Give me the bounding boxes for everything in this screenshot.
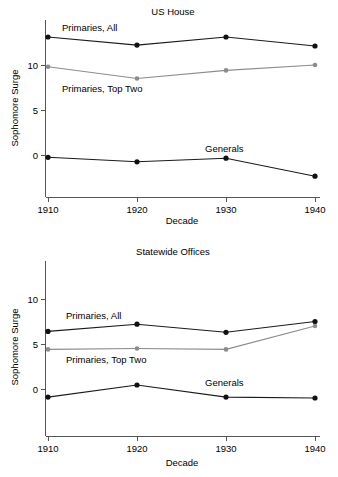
data-point [45, 34, 50, 39]
panel-title-statewide-offices: Statewide Offices [136, 246, 210, 257]
series-primaries-all-bottom [45, 319, 317, 335]
series-label-generals-top: Generals [205, 143, 244, 154]
series-generals-bottom [45, 382, 317, 400]
data-point [312, 395, 317, 400]
data-point [223, 156, 228, 161]
data-point [224, 347, 229, 352]
chart-panel-us-house: US House 0 5 10 1910 1920 1930 1940 Deca… [0, 0, 338, 240]
x-tick-label-1940-bottom: 1940 [304, 443, 325, 454]
series-primaries-top-two-top [46, 63, 318, 81]
data-point [312, 319, 317, 324]
data-point [46, 347, 51, 352]
series-generals-top [45, 155, 317, 179]
data-point [313, 324, 318, 329]
series-primaries-all-top [45, 34, 317, 48]
data-point [223, 330, 228, 335]
data-point [45, 329, 50, 334]
y-tick-label-0-bottom: 0 [33, 384, 38, 395]
us-house-plot: US House 0 5 10 1910 1920 1930 1940 Deca… [0, 0, 338, 240]
panel-title-us-house: US House [151, 6, 194, 17]
series-label-primaries-all-bottom: Primaries, All [66, 310, 121, 321]
y-axis-title-bottom: Sophomore Surge [9, 308, 20, 385]
data-point [312, 174, 317, 179]
series-label-primaries-all-top: Primaries, All [62, 22, 117, 33]
data-point [312, 43, 317, 48]
data-point [134, 322, 139, 327]
x-tick-label-1920-top: 1920 [126, 204, 147, 215]
data-point [223, 34, 228, 39]
data-point [134, 159, 139, 164]
x-tick-label-1930-bottom: 1930 [215, 443, 236, 454]
series-label-generals-bottom: Generals [205, 377, 244, 388]
y-tick-label-5-bottom: 5 [33, 339, 38, 350]
y-axis-title-top: Sophomore Surge [9, 69, 20, 146]
x-tick-label-1910-bottom: 1910 [37, 443, 58, 454]
x-axis-title-top: Decade [166, 215, 199, 226]
data-point [45, 155, 50, 160]
statewide-offices-plot: Statewide Offices 0 5 10 1910 1920 1930 … [0, 240, 338, 477]
series-label-primaries-top-two-top: Primaries, Top Two [62, 83, 142, 94]
x-tick-label-1910-top: 1910 [37, 204, 58, 215]
y-tick-label-10-bottom: 10 [27, 294, 38, 305]
figure-sophomore-surge: US House 0 5 10 1910 1920 1930 1940 Deca… [0, 0, 338, 477]
data-point [46, 65, 51, 70]
x-tick-label-1920-bottom: 1920 [126, 443, 147, 454]
chart-panel-statewide-offices: Statewide Offices 0 5 10 1910 1920 1930 … [0, 240, 338, 477]
data-point [313, 63, 318, 68]
data-point [45, 395, 50, 400]
x-tick-label-1940-top: 1940 [304, 204, 325, 215]
data-point [134, 43, 139, 48]
y-tick-label-5-top: 5 [33, 105, 38, 116]
x-tick-label-1930-top: 1930 [215, 204, 236, 215]
data-point [135, 76, 140, 81]
data-point [223, 395, 228, 400]
data-point [134, 382, 139, 387]
data-point [224, 68, 229, 73]
series-label-primaries-top-two-bottom: Primaries, Top Two [66, 354, 146, 365]
data-point [135, 346, 140, 351]
y-tick-label-0-top: 0 [33, 150, 38, 161]
x-axis-title-bottom: Decade [166, 457, 199, 468]
y-tick-label-10-top: 10 [27, 60, 38, 71]
